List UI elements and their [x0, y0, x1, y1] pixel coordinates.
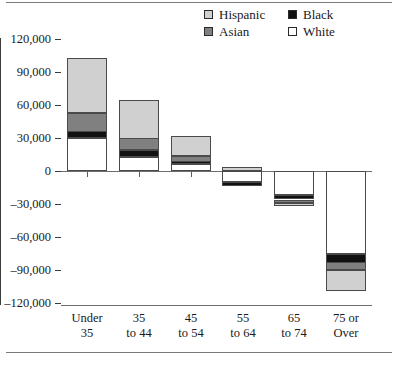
bar-segment-asian[interactable] — [67, 113, 107, 132]
bar-segment-black[interactable] — [222, 182, 262, 186]
bar-segment-black[interactable] — [67, 131, 107, 138]
y-axis-tick — [55, 171, 61, 172]
bar-segment-hispanic[interactable] — [222, 167, 262, 171]
x-axis-tick-label: 35to 44 — [113, 311, 165, 340]
bar-segment-white[interactable] — [67, 138, 107, 171]
bar-segment-hispanic[interactable] — [274, 203, 314, 206]
y-axis-tick-label: 90,000 — [0, 66, 51, 79]
x-axis-tick-label: Under35 — [61, 311, 113, 340]
y-axis-tick — [55, 105, 61, 106]
chart-figure: Hispanic Black Asian White 120,00090,000… — [0, 0, 398, 366]
bar-stack[interactable] — [119, 0, 159, 306]
bar-segment-white[interactable] — [274, 171, 314, 195]
bar-segment-hispanic[interactable] — [67, 58, 107, 113]
y-axis-tick — [55, 39, 61, 40]
bar-stack[interactable] — [67, 0, 107, 306]
bar-segment-white[interactable] — [326, 171, 366, 254]
x-axis-tick-label: 65to 74 — [268, 311, 320, 340]
y-axis-tick — [55, 72, 61, 73]
y-axis-tick — [55, 138, 61, 139]
bar-segment-white[interactable] — [171, 164, 211, 171]
y-axis-tick-label: 60,000 — [0, 99, 51, 112]
y-axis-tick-label: –120,000 — [0, 297, 51, 310]
y-axis-tick-label: 0 — [0, 165, 51, 178]
bar-segment-hispanic[interactable] — [119, 100, 159, 139]
bar-segment-asian[interactable] — [326, 262, 366, 270]
bar-stack[interactable] — [326, 0, 366, 306]
y-axis-tick-label: –60,000 — [0, 231, 51, 244]
bar-stack[interactable] — [171, 0, 211, 306]
bar-segment-white[interactable] — [222, 171, 262, 182]
y-axis-tick — [55, 303, 61, 304]
y-axis-tick — [55, 204, 61, 205]
bar-segment-black[interactable] — [274, 195, 314, 199]
y-axis-tick — [55, 237, 61, 238]
y-axis-tick-label: –90,000 — [0, 264, 51, 277]
y-axis-tick-label: –30,000 — [0, 198, 51, 211]
y-axis-tick-label: 120,000 — [0, 33, 51, 46]
bar-segment-asian[interactable] — [119, 138, 159, 150]
bar-segment-hispanic[interactable] — [326, 270, 366, 291]
y-axis-tick-label: 30,000 — [0, 132, 51, 145]
x-axis-tick-label: 45to 54 — [165, 311, 217, 340]
bar-stack[interactable] — [222, 0, 262, 306]
y-axis-tick — [55, 270, 61, 271]
bar-segment-asian[interactable] — [171, 156, 211, 162]
bottom-rule — [6, 352, 392, 353]
bar-segment-hispanic[interactable] — [171, 136, 211, 156]
x-axis-tick-label: 55to 64 — [217, 311, 269, 340]
bar-segment-black[interactable] — [119, 150, 159, 157]
bar-stack[interactable] — [274, 0, 314, 306]
x-axis-tick-label: 75 orOver — [320, 311, 372, 340]
bar-segment-white[interactable] — [119, 157, 159, 171]
